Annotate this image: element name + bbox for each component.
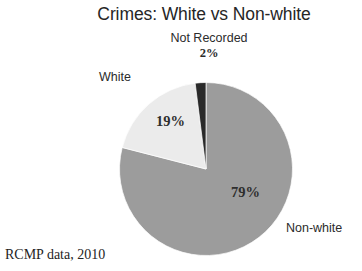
slice-percent-not-recorded: 2% <box>150 46 268 61</box>
pie-graphic <box>119 82 293 256</box>
slice-label-not-recorded: Not Recorded <box>150 31 268 46</box>
pie-value-label-non-white: 79% <box>231 184 260 200</box>
pie-chart-figure: Crimes: White vs Non-white Not Recorded … <box>0 0 362 271</box>
page-title: Crimes: White vs Non-white <box>0 3 362 25</box>
pie-value-label-white: 19% <box>156 113 185 129</box>
source-note: RCMP data, 2010 <box>5 246 105 264</box>
pie-svg <box>119 82 293 256</box>
slice-label-non-white: Non-white <box>286 221 342 236</box>
